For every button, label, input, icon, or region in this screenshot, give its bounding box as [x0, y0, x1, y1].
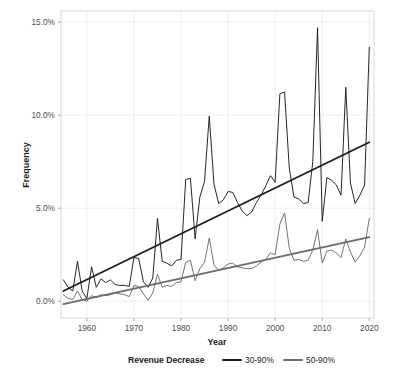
legend-label-30-90: 30-90% [245, 355, 274, 365]
x-tick-label-2000: 2000 [266, 323, 285, 333]
y-tick-label-15: 15.0% [31, 17, 55, 27]
x-axis-title: Year [207, 337, 227, 347]
y-tick-label-5: 5.0% [36, 203, 56, 213]
y-tick-label-0: 0.0% [36, 296, 56, 306]
frequency-by-year-line-chart: 0.0%5.0%10.0%15.0% 196019701980199020002… [0, 0, 396, 380]
x-tick-label-1990: 1990 [219, 323, 238, 333]
y-axis-title: Frequency [21, 142, 31, 188]
x-tick-label-1960: 1960 [78, 323, 97, 333]
x-tick-label-1980: 1980 [172, 323, 191, 333]
plot-panel-background [61, 11, 374, 318]
x-tick-label-1970: 1970 [125, 323, 144, 333]
legend-label-50-90: 50-90% [306, 355, 335, 365]
chart-figure: 0.0%5.0%10.0%15.0% 196019701980199020002… [0, 0, 396, 380]
x-tick-label-2020: 2020 [360, 323, 379, 333]
legend-title: Revenue Decrease [128, 355, 205, 365]
x-tick-label-2010: 2010 [313, 323, 332, 333]
y-tick-label-10: 10.0% [31, 110, 55, 120]
